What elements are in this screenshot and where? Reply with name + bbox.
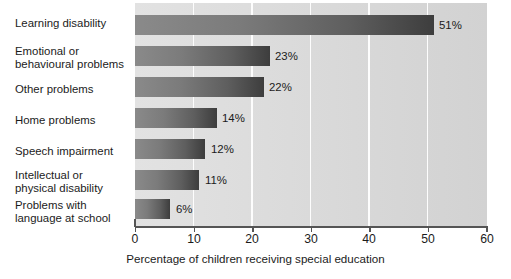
bar-value-speech-impairment: 12% — [211, 143, 234, 155]
plot-area — [135, 3, 487, 226]
bar-value-learning-disability: 51% — [439, 19, 462, 31]
bar-intellectual-physical — [135, 170, 199, 190]
x-tick-label-20: 20 — [245, 232, 259, 246]
bar-language-at-school — [135, 199, 170, 219]
category-label-language-at-school: Problems with language at school — [15, 199, 130, 224]
bar-chart: Learning disability Emotional or behavio… — [0, 0, 511, 279]
category-axis-labels: Learning disability Emotional or behavio… — [0, 0, 134, 227]
bar-value-home-problems: 14% — [222, 112, 245, 124]
x-tick-label-10: 10 — [187, 232, 201, 246]
bar-speech-impairment — [135, 139, 205, 159]
gridline-30 — [310, 3, 311, 226]
bar-value-other-problems: 22% — [269, 81, 292, 93]
gridline-50 — [427, 3, 428, 226]
bar-home-problems — [135, 108, 217, 128]
x-tick-label-40: 40 — [362, 232, 376, 246]
bar-value-emotional-behavioural: 23% — [275, 50, 298, 62]
category-label-emotional-behavioural: Emotional or behavioural problems — [15, 45, 130, 70]
bar-value-language-at-school: 6% — [176, 203, 192, 215]
x-axis-title: Percentage of children receiving special… — [0, 252, 511, 265]
gridline-40 — [368, 3, 369, 226]
x-tick-label-50: 50 — [421, 232, 435, 246]
x-tick-label-60: 60 — [480, 232, 494, 246]
category-label-speech-impairment: Speech impairment — [15, 145, 130, 158]
bar-other-problems — [135, 77, 264, 97]
bar-learning-disability — [135, 15, 434, 35]
category-label-other-problems: Other problems — [15, 83, 130, 96]
category-label-home-problems: Home problems — [15, 114, 130, 127]
x-tick-label-0: 0 — [132, 232, 139, 246]
x-tick-label-30: 30 — [304, 232, 318, 246]
bar-value-intellectual-physical: 11% — [205, 174, 227, 186]
category-label-intellectual-physical: Intellectual or physical disability — [15, 169, 130, 194]
bar-emotional-behavioural — [135, 46, 270, 66]
category-label-learning-disability: Learning disability — [15, 17, 130, 30]
gridline-20 — [251, 3, 252, 226]
